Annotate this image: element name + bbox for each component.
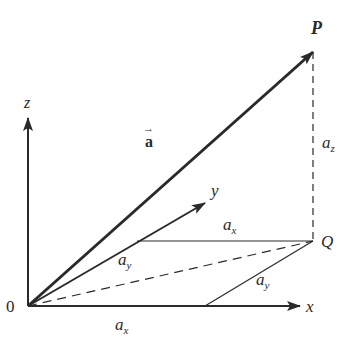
point-q-label: Q xyxy=(321,232,333,251)
vector-components-diagram: z y x 0 P Q → a az ax ay ay ax xyxy=(0,0,351,347)
point-p-label: P xyxy=(310,18,323,38)
az-label: az xyxy=(322,133,336,154)
az-base: a xyxy=(322,133,331,152)
ay-right-label: ay xyxy=(256,270,270,291)
ax-bottom-base: a xyxy=(115,315,124,334)
vector-a xyxy=(28,52,313,306)
ax-bottom-sub: x xyxy=(123,324,129,336)
ay-left-sub: y xyxy=(126,259,132,271)
ay-right-sub: y xyxy=(264,279,270,291)
ay-left-base: a xyxy=(118,250,127,269)
ay-left-label: ay xyxy=(118,250,132,271)
ax-top-label: ax xyxy=(223,215,237,236)
y-axis xyxy=(28,203,205,306)
ay-right-base: a xyxy=(256,270,265,289)
vector-a-label: a xyxy=(145,133,153,150)
y-axis-label: y xyxy=(209,181,219,200)
ax-top-sub: x xyxy=(231,224,237,236)
ax-bottom-label: ax xyxy=(115,315,129,336)
az-sub: z xyxy=(330,142,336,154)
dashed-line-oq xyxy=(28,241,313,306)
z-axis-label: z xyxy=(23,94,31,111)
ax-top-base: a xyxy=(223,215,232,234)
origin-label: 0 xyxy=(6,297,15,316)
x-axis-label: x xyxy=(305,297,314,316)
